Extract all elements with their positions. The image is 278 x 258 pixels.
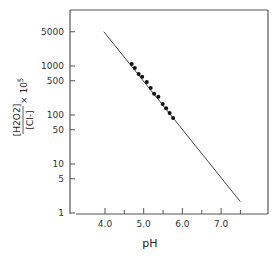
data-point — [152, 92, 156, 96]
x-axis: 4.05.06.07.0 — [98, 208, 241, 229]
data-point — [133, 66, 137, 70]
y-tick-label: 1000 — [41, 61, 64, 71]
data-point — [161, 102, 165, 106]
x-tick-label: 4.0 — [98, 219, 113, 229]
data-point — [164, 106, 168, 110]
data-point — [137, 72, 141, 76]
y-tick-label: 10 — [53, 159, 65, 169]
y-axis-title-denominator: [Cl-] — [25, 110, 35, 129]
data-point — [149, 86, 153, 90]
x-tick-label: 7.0 — [214, 219, 229, 229]
chart: 4.05.06.07.0 15105010050010005000 pH [H2… — [0, 0, 278, 258]
y-tick-label: 500 — [47, 76, 64, 86]
x-tick-label: 5.0 — [137, 219, 152, 229]
data-point — [145, 80, 149, 84]
x-tick-label: 6.0 — [175, 219, 190, 229]
data-point — [130, 62, 134, 66]
plot-area — [104, 32, 241, 202]
y-tick-label: 100 — [47, 110, 64, 120]
data-point — [156, 95, 160, 99]
y-tick-label: 5 — [58, 174, 64, 184]
y-axis-title: [H2O2] [Cl-] × 105 — [12, 78, 35, 137]
y-tick-label: 5000 — [41, 27, 64, 37]
data-point — [171, 116, 175, 120]
y-axis-title-numerator: [H2O2] — [12, 104, 22, 136]
x-axis-title: pH — [142, 237, 157, 250]
y-axis-title-multiplier: × 105 — [17, 78, 29, 104]
y-tick-label: 50 — [53, 125, 65, 135]
data-point — [140, 75, 144, 79]
y-tick-label: 1 — [58, 208, 64, 218]
data-point — [168, 111, 172, 115]
